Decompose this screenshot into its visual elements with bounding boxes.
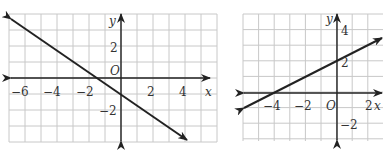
- left-x-tick: −4: [43, 85, 61, 99]
- right-y-tick: 4: [341, 24, 349, 38]
- left-x-tick: 2: [147, 85, 155, 99]
- right-graph-line: [244, 38, 382, 108]
- left-y-tick: −2: [99, 104, 117, 118]
- left-x-tick: −2: [76, 85, 94, 99]
- right-x-tick: −4: [263, 99, 281, 113]
- right-y-axis-label: y: [325, 12, 333, 26]
- left-x-tick-labels: −6 −4 −2 2 4: [11, 85, 187, 99]
- right-origin-label: O: [326, 99, 336, 113]
- left-coordinate-graph: −6 −4 −2 2 4 2 −2 x y O: [9, 14, 217, 142]
- right-x-tick: −2: [294, 99, 312, 113]
- right-grid: [243, 14, 383, 141]
- left-x-tick: 4: [179, 85, 187, 99]
- left-x-axis-label: x: [205, 85, 212, 99]
- right-y-tick: 2: [341, 56, 349, 70]
- right-y-tick: −2: [340, 118, 358, 132]
- right-x-tick: 2: [365, 99, 373, 113]
- right-coordinate-graph: −4 −2 2 4 2 −2 x y O: [243, 12, 383, 141]
- left-origin-label: O: [110, 64, 120, 78]
- left-graph-line: [11, 19, 187, 140]
- left-y-axis-label: y: [108, 14, 116, 28]
- right-x-axis-label: x: [374, 99, 381, 113]
- left-y-tick: 2: [110, 41, 118, 55]
- left-x-tick: −6: [11, 85, 29, 99]
- graphs-canvas: −6 −4 −2 2 4 2 −2 x y O −4 −2 2 4 2 −2 x…: [0, 0, 392, 153]
